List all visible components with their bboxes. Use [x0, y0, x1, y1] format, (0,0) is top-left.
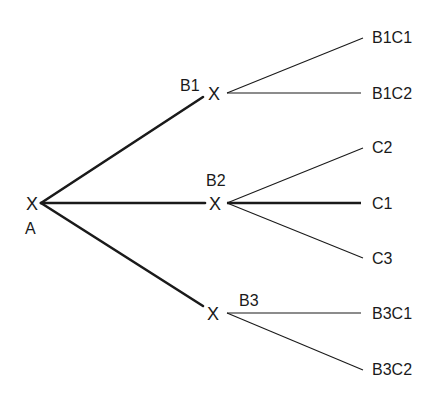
leaf-b3c2: B3C2 — [372, 362, 412, 378]
edge-a-b1 — [41, 97, 203, 203]
edge-b2-c2 — [227, 148, 363, 203]
edge-b3-b3c2 — [227, 313, 363, 370]
leaf-c3: C3 — [372, 251, 392, 267]
edge-b1-b1c1 — [227, 38, 363, 93]
leaf-b1c2: B1C2 — [372, 86, 412, 102]
root-node-marker: X — [26, 195, 38, 213]
leaf-c2: C2 — [372, 140, 392, 156]
branch-b1-label: B1 — [180, 78, 200, 94]
leaf-b3c1: B3C1 — [372, 306, 412, 322]
branch-b2-marker: X — [209, 195, 221, 213]
branch-b3-marker: X — [207, 305, 219, 323]
leaf-b1c1: B1C1 — [372, 30, 412, 46]
edge-b2-c3 — [227, 203, 363, 258]
edge-a-b3 — [41, 203, 203, 306]
tree-diagram: X A B1 X B2 X B3 X B1C1 B1C2 C2 C1 C3 B3… — [0, 0, 443, 405]
branch-b3-label: B3 — [239, 293, 259, 309]
branch-b2-label: B2 — [206, 173, 226, 189]
root-node-label: A — [25, 221, 36, 237]
branch-b1-marker: X — [208, 85, 220, 103]
leaf-c1: C1 — [372, 196, 392, 212]
